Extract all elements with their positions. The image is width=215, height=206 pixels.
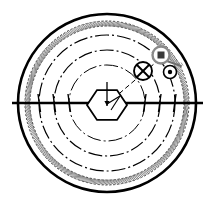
- square-in-circle-marker: [153, 47, 170, 64]
- diagram-root: [0, 0, 215, 206]
- inner-square: [158, 52, 165, 59]
- inner-dot: [168, 70, 172, 74]
- technical-diagram-canvas: [0, 0, 215, 206]
- crossed-circle-marker: [134, 62, 152, 80]
- dot-in-circle-marker: [164, 66, 177, 79]
